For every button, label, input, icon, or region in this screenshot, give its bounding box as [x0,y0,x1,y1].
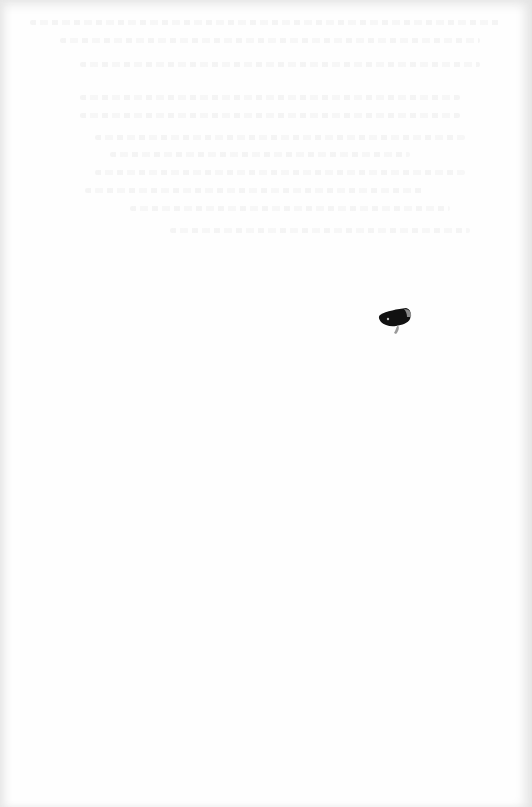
scanned-page [0,0,532,807]
ghost-text-line [110,152,410,157]
ghost-text-line [80,95,460,100]
ghost-text-line [95,135,465,140]
ghost-text-line [95,170,465,175]
ghost-text-line [170,228,470,233]
ghost-text-line [80,62,480,67]
ghost-text-line [85,188,425,193]
ghost-text-line [130,206,450,211]
ghost-text-line [60,38,480,43]
ghost-text-line [30,20,500,25]
ink-blot [376,305,414,337]
ghost-text-line [80,113,460,118]
